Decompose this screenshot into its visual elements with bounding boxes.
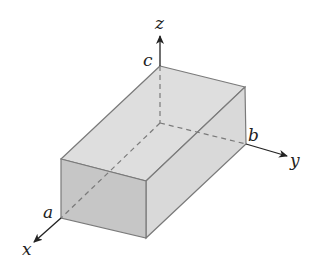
a-label: a: [43, 202, 53, 222]
box-diagram: z c b y a x: [0, 0, 315, 273]
b-label: b: [248, 125, 259, 145]
y-axis: [246, 144, 287, 156]
x-axis-label: x: [22, 239, 32, 259]
y-axis-label: y: [289, 150, 300, 170]
z-axis-label: z: [154, 13, 165, 33]
c-label: c: [143, 50, 153, 70]
